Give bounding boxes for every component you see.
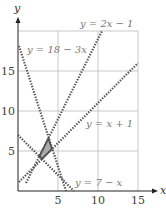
y-tick-5: 5 [8, 145, 15, 158]
x-tick-10: 10 [91, 194, 105, 207]
line-18-minus-3x [19, 46, 66, 191]
x-axis-label: x [160, 184, 166, 197]
y-tick-15: 15 [1, 65, 15, 78]
grid [18, 31, 138, 191]
label-line4: y = 7 − x [74, 177, 122, 188]
y-tick-10: 10 [1, 105, 15, 118]
x-tick-15: 15 [131, 194, 145, 207]
y-axis-arrow-icon [16, 17, 21, 23]
x-axis-arrow-icon [152, 189, 158, 194]
label-line2: y = 18 − 3x [26, 44, 87, 55]
label-line3: y = x + 1 [85, 118, 133, 129]
label-line1: y = 2x − 1 [79, 18, 134, 29]
chart: y = 2x − 1 y = 18 − 3x y = x + 1 y = 7 −… [0, 0, 166, 208]
x-tick-5: 5 [55, 194, 62, 207]
y-axis-label: y [13, 2, 21, 15]
